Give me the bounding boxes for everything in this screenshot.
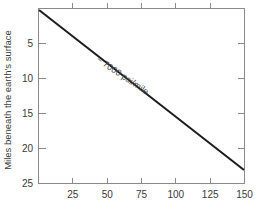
- y-axis-ticks-right: [238, 44, 245, 149]
- x-tick-label-50: 50: [102, 189, 114, 200]
- y-tick-label-5: 5: [27, 38, 33, 49]
- y-axis-ticks-left: [39, 44, 46, 184]
- gradient-annotation: ~ 7000 psi/mile: [95, 54, 151, 96]
- y-tick-label-15: 15: [22, 108, 34, 119]
- chart-figure: 25 50 75 100 125 150 5 10 15 20 25 Miles…: [0, 0, 258, 209]
- x-tick-label-100: 100: [167, 189, 184, 200]
- line-chart: 25 50 75 100 125 150 5 10 15 20 25 Miles…: [0, 0, 258, 209]
- y-tick-label-25: 25: [22, 178, 34, 189]
- x-tick-label-125: 125: [202, 189, 219, 200]
- y-axis-title: Miles beneath the earth's surface: [2, 30, 13, 170]
- x-axis-ticks-bottom: [73, 178, 245, 184]
- x-tick-label-25: 25: [67, 189, 79, 200]
- x-axis-ticks-top: [73, 3, 210, 9]
- y-tick-label-10: 10: [22, 73, 34, 84]
- x-tick-label-150: 150: [236, 189, 253, 200]
- x-tick-label-75: 75: [136, 189, 148, 200]
- y-tick-label-20: 20: [22, 143, 34, 154]
